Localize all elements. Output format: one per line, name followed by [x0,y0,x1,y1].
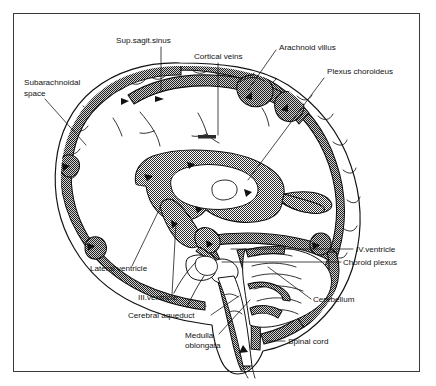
label-cerebral-aqueduct: Cerebral aqueduct [128,311,195,320]
label-sup-sagit-sinus: Sup.sagit.sinus [116,36,171,45]
figure-root: Sup.sagit.sinus Cortical veins Arachnoid… [0,0,436,386]
label-spinal-cord: Spinal cord [288,337,329,346]
label-cortical-veins: Cortical veins [194,52,243,61]
label-medulla-oblongata: Medulla oblongata [185,331,221,351]
label-layer: Sup.sagit.sinus Cortical veins Arachnoid… [0,0,436,386]
label-arachnoid-villus: Arachnoid villus [279,43,336,52]
label-cerebellum: Cerebellum [313,295,354,304]
label-subarachnoidal-space-line1: Subarachnoidal [24,77,80,88]
label-lateral-ventricle: Lateral ventricle [90,264,147,273]
label-plexus-choroideus: Plexus choroideus [327,67,393,76]
label-choroid-plexus: Choroid plexus [343,258,397,267]
label-subarachnoidal-space: Subarachnoidal space [24,77,80,99]
label-iii-ventricle: III.ventricle [138,293,177,302]
label-medulla-oblongata-line2: oblongata [185,341,221,351]
label-iv-ventricle: IV.ventricle [356,245,395,254]
label-medulla-oblongata-line1: Medulla [185,331,221,341]
label-subarachnoidal-space-line2: space [24,88,80,99]
